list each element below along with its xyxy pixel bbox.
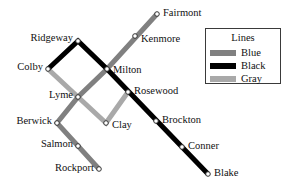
- station-label-conner: Conner: [188, 140, 219, 151]
- station-node-conner[interactable]: [180, 145, 185, 150]
- station-node-rosewood[interactable]: [126, 90, 131, 95]
- legend-swatch-blue-icon: [210, 50, 236, 56]
- station-label-milton: Milton: [113, 64, 142, 75]
- station-node-fairmont[interactable]: [155, 12, 160, 17]
- station-label-colby: Colby: [17, 61, 43, 72]
- station-label-lyme: Lyme: [49, 89, 73, 100]
- station-label-rosewood: Rosewood: [134, 85, 179, 96]
- legend-title: Lines: [206, 32, 280, 44]
- legend-item-gray[interactable]: Gray: [206, 72, 280, 85]
- station-node-blake[interactable]: [206, 172, 211, 177]
- station-node-milton[interactable]: [105, 67, 110, 72]
- legend-rows: BlueBlackGray: [206, 46, 280, 85]
- station-label-brockton: Brockton: [162, 114, 202, 125]
- station-label-fairmont: Fairmont: [163, 7, 202, 18]
- legend-swatch-black-icon: [210, 63, 236, 69]
- station-label-kenmore: Kenmore: [141, 33, 180, 44]
- legend-panel: Lines BlueBlackGray: [205, 28, 281, 84]
- legend-label-blue: Blue: [241, 47, 261, 58]
- transit-map: FairmontKenmoreRidgewayColbyMiltonRosewo…: [0, 0, 287, 189]
- station-label-salmon: Salmon: [41, 138, 74, 149]
- station-node-colby[interactable]: [46, 67, 51, 72]
- station-node-rockport[interactable]: [97, 167, 102, 172]
- station-label-clay: Clay: [112, 119, 133, 130]
- station-label-rockport: Rockport: [55, 162, 94, 173]
- legend-label-gray: Gray: [241, 73, 262, 84]
- station-node-berwick[interactable]: [55, 121, 60, 126]
- station-node-clay[interactable]: [104, 121, 109, 126]
- station-label-blake: Blake: [214, 167, 239, 178]
- legend-label-black: Black: [241, 60, 266, 71]
- station-node-brockton[interactable]: [154, 119, 159, 124]
- legend-swatch-gray-icon: [210, 76, 236, 82]
- station-node-kenmore[interactable]: [133, 34, 138, 39]
- station-node-salmon[interactable]: [76, 144, 81, 149]
- legend-item-blue[interactable]: Blue: [206, 46, 280, 59]
- station-label-ridgeway: Ridgeway: [30, 32, 73, 43]
- legend-item-black[interactable]: Black: [206, 59, 280, 72]
- station-node-lyme[interactable]: [76, 95, 81, 100]
- station-label-berwick: Berwick: [16, 115, 52, 126]
- station-node-ridgeway[interactable]: [76, 39, 81, 44]
